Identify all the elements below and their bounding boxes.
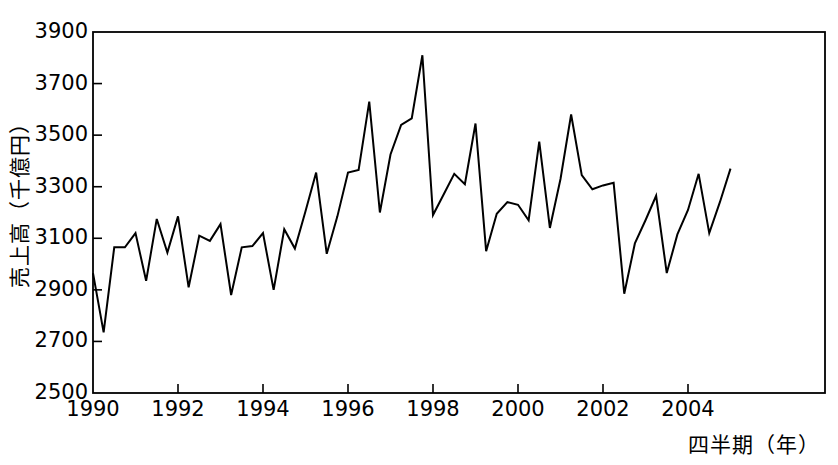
plot-border — [93, 32, 825, 393]
x-axis-title: 四半期（年） — [0, 428, 838, 458]
axis-frame — [93, 32, 825, 393]
x-axis-tick-labels: 19901992199419961998200020022004 — [0, 399, 838, 425]
x-tick-label: 1990 — [66, 399, 119, 420]
x-tick-label: 2002 — [576, 399, 629, 420]
chart-figure: 売上高（千億円） 2500270029003100330035003700390… — [0, 0, 838, 465]
x-tick-label: 1998 — [406, 399, 459, 420]
plot-area — [0, 0, 838, 465]
x-tick-label: 2004 — [661, 399, 714, 420]
x-tick-label: 2000 — [491, 399, 544, 420]
x-tick-label: 1996 — [321, 399, 374, 420]
x-tick-label: 1994 — [236, 399, 289, 420]
x-tick-label: 1992 — [151, 399, 204, 420]
sales-line-series — [93, 55, 731, 332]
